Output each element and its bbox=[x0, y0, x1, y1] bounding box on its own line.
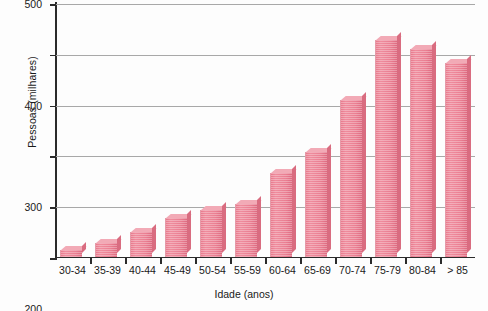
bar bbox=[410, 49, 432, 257]
x-tick-label: 70-74 bbox=[339, 264, 366, 276]
y-tick-label: 500 bbox=[24, 0, 42, 10]
x-tick-label: 45-49 bbox=[164, 264, 191, 276]
x-axis-title: Idade (anos) bbox=[0, 288, 488, 300]
gridline bbox=[56, 4, 475, 5]
y-tick-label: 200 bbox=[24, 303, 42, 311]
bar-side-face bbox=[117, 235, 121, 253]
bar bbox=[235, 204, 257, 257]
bar bbox=[200, 210, 222, 257]
y-tick-mark: 0 bbox=[50, 258, 56, 260]
bar-side-face bbox=[467, 55, 471, 253]
plot-area: 0100200300400500 bbox=[55, 4, 475, 258]
bar-side-face bbox=[292, 165, 296, 253]
x-tick-label: 60-64 bbox=[269, 264, 296, 276]
bar-side-face bbox=[187, 210, 191, 253]
bar bbox=[130, 232, 152, 257]
x-tick-label: 55-59 bbox=[234, 264, 261, 276]
bar bbox=[305, 152, 327, 257]
bar bbox=[270, 173, 292, 257]
y-tick-mark: 400 bbox=[50, 55, 56, 57]
bar-side-face bbox=[327, 144, 331, 253]
bar bbox=[340, 100, 362, 257]
x-axis-tick-labels: 30-3435-3940-4445-4950-5455-5960-6465-69… bbox=[55, 264, 475, 280]
y-tick-mark: 300 bbox=[50, 106, 56, 108]
bar-chart: Pessoas (milhares) 0100200300400500 30-3… bbox=[0, 0, 488, 311]
y-axis-line bbox=[55, 2, 57, 260]
x-tick-label: 65-69 bbox=[304, 264, 331, 276]
bar-side-face bbox=[222, 202, 226, 253]
y-tick-label: 400 bbox=[24, 100, 42, 112]
bar-side-face bbox=[432, 41, 436, 253]
x-tick-label: > 85 bbox=[447, 264, 468, 276]
bar-side-face bbox=[362, 92, 366, 253]
y-tick-mark: 500 bbox=[50, 4, 56, 6]
bar bbox=[165, 218, 187, 257]
x-tick-label: 80-84 bbox=[409, 264, 436, 276]
x-tick-label: 40-44 bbox=[129, 264, 156, 276]
y-tick-mark: 200 bbox=[50, 156, 56, 158]
bar bbox=[445, 63, 467, 257]
x-tick-label: 50-54 bbox=[199, 264, 226, 276]
x-tick-label: 35-39 bbox=[94, 264, 121, 276]
bar-side-face bbox=[257, 196, 261, 253]
bar-side-face bbox=[82, 242, 86, 253]
y-tick-label: 300 bbox=[24, 201, 42, 213]
x-tick-label: 75-79 bbox=[374, 264, 401, 276]
bar bbox=[60, 250, 82, 257]
bar-side-face bbox=[397, 32, 401, 253]
x-tick-label: 30-34 bbox=[59, 264, 86, 276]
bar-side-face bbox=[152, 224, 156, 253]
bar bbox=[95, 243, 117, 257]
y-tick-mark: 100 bbox=[50, 207, 56, 209]
bar bbox=[375, 40, 397, 257]
